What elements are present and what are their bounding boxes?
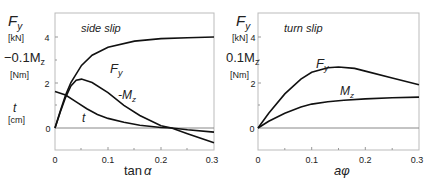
right-ylabel-fy: Fy (236, 12, 251, 32)
left-annotation-t: t (82, 111, 86, 125)
right-xtick-0: 0 (255, 155, 260, 165)
left-xtick-03: 0.3 (206, 155, 219, 165)
left-curve-mz (55, 79, 214, 143)
left-ytick-2: 2 (44, 79, 49, 89)
figure: Fy [kN] 4 −0.1Mz [Nm] 2 t [cm] 0 0 0.1 0… (0, 0, 437, 180)
left-ylabel-t-unit: [cm] (8, 115, 25, 125)
right-ylabel-mz-unit: [Nm] (230, 70, 249, 80)
left-ytick-0: 0 (45, 124, 50, 134)
left-ylabel-t: t (13, 101, 17, 115)
left-annotation-mz: -Mz (118, 88, 136, 104)
right-xlabel: aφ (334, 163, 350, 178)
left-xlabel: tanα (124, 163, 152, 178)
left-annotation-fy: Fy (110, 61, 123, 78)
left-ylabel-mz-unit: [Nm] (10, 70, 29, 80)
right-ytick-2: 2 (250, 79, 255, 89)
right-xtick-03: 0.3 (411, 155, 424, 165)
right-xtick-01: 0.1 (305, 155, 318, 165)
right-ylabel-mz: 0.1Mz (226, 50, 260, 67)
right-ytick-0: 0 (249, 124, 254, 134)
left-xtick-02: 0.2 (155, 155, 168, 165)
right-annotation-fy: Fy (316, 56, 329, 73)
left-curve-fy (55, 37, 214, 128)
left-panel: Fy [kN] 4 −0.1Mz [Nm] 2 t [cm] 0 0 0.1 0… (4, 12, 218, 178)
left-ylabel-fy-unit: [kN] (8, 33, 24, 43)
left-ylabel-mz: −0.1Mz (4, 50, 46, 67)
left-ytick-4: 4 (44, 33, 49, 43)
right-annotation-mz: Mz (340, 84, 354, 100)
right-title: turn slip (284, 22, 323, 34)
left-xtick-0: 0 (52, 155, 57, 165)
right-ylabel-fy-unit: [kN] (232, 33, 248, 43)
right-ticks (258, 37, 392, 150)
left-title: side slip (81, 22, 121, 34)
right-curve-mz (258, 97, 419, 128)
right-xtick-02: 0.2 (359, 155, 372, 165)
left-xtick-01: 0.1 (102, 155, 115, 165)
right-panel: Fy [kN] 4 0.1Mz [Nm] 2 0 0 0.1 0.2 0.3 a… (226, 12, 423, 178)
right-ytick-4: 4 (250, 33, 255, 43)
right-plot-frame (258, 13, 419, 150)
left-ylabel-fy: Fy (8, 12, 23, 32)
